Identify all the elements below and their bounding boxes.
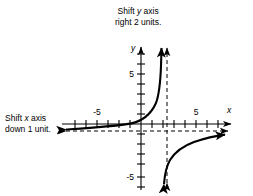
y-axis-label: y bbox=[130, 43, 136, 53]
x-tick-label-5: 5 bbox=[194, 107, 199, 117]
annotation-left-line2: down 1 unit. bbox=[5, 124, 51, 134]
annotation-top-line1: Shift y axis bbox=[118, 6, 159, 16]
annotation-top-line2: right 2 units. bbox=[115, 17, 161, 27]
x-tick-label-neg5: -5 bbox=[93, 107, 101, 117]
annotation-shift-y-axis: Shift y axis right 2 units. bbox=[115, 6, 161, 27]
graph-figure: Shift y axis right 2 units. Shift x axis… bbox=[0, 0, 253, 196]
annotation-shift-x-axis: Shift x axis down 1 unit. bbox=[5, 113, 51, 134]
curve-branch-upper-left bbox=[66, 48, 162, 130]
coordinate-plane: -5 5 x 5 -5 y bbox=[0, 0, 253, 196]
annotation-left-line1: Shift x axis bbox=[5, 113, 46, 123]
curve-branch-lower-right bbox=[164, 135, 225, 184]
x-axis-label: x bbox=[226, 105, 232, 115]
y-tick-label-5: 5 bbox=[129, 69, 134, 79]
y-axis-group: 5 -5 y bbox=[126, 43, 145, 190]
y-tick-label-neg5: -5 bbox=[126, 172, 134, 182]
